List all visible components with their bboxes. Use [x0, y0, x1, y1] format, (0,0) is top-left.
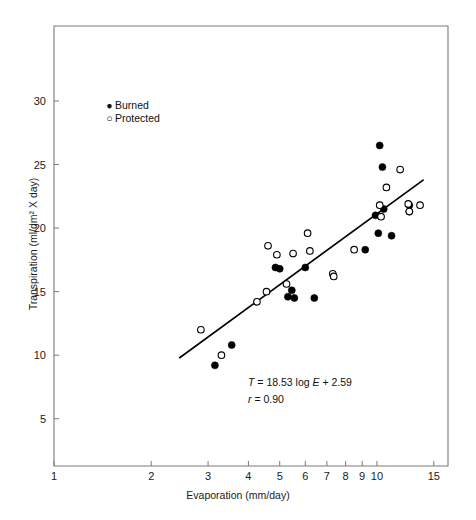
data-point-burned [362, 246, 369, 253]
equation-variable-symbol: E [313, 376, 320, 388]
data-point-protected [307, 248, 314, 255]
data-point-protected [406, 208, 413, 215]
data-point-protected [330, 273, 337, 280]
correlation-annotation: r = 0.90 [248, 393, 284, 405]
legend-label-burned: Burned [115, 99, 149, 111]
x-tick-label: 9 [359, 470, 365, 482]
data-point-burned [211, 362, 218, 369]
x-axis-title: Evaporation (mm/day) [0, 489, 476, 501]
x-tick-label: 10 [371, 470, 383, 482]
data-point-burned [228, 342, 235, 349]
data-point-protected [283, 281, 290, 288]
legend-label-protected: Protected [115, 112, 160, 124]
y-tick-label: 5 [40, 413, 46, 425]
plot-canvas: 123456789101551015202530 [0, 0, 476, 520]
data-point-protected [378, 213, 385, 220]
data-point-protected [265, 243, 272, 250]
data-point-burned [276, 265, 283, 272]
data-point-protected [405, 201, 412, 208]
data-point-protected [383, 184, 390, 191]
data-point-protected [274, 251, 281, 258]
data-point-protected [417, 202, 424, 209]
data-point-burned [376, 142, 383, 149]
filled-circle-icon: ● [104, 99, 115, 111]
x-tick-label: 4 [245, 470, 251, 482]
data-point-burned [302, 264, 309, 271]
data-point-protected [397, 166, 404, 173]
data-point-protected [263, 288, 270, 295]
data-point-burned [379, 164, 386, 171]
regression-equation: T = 18.53 log E + 2.59 [248, 376, 352, 388]
data-point-burned [311, 294, 318, 301]
equation-rhs: + 2.59 [320, 376, 352, 388]
data-point-protected [218, 352, 225, 359]
x-tick-label: 1 [51, 470, 57, 482]
x-tick-label: 7 [324, 470, 330, 482]
data-point-burned [388, 232, 395, 239]
x-tick-label: 5 [277, 470, 283, 482]
open-circle-icon: ○ [104, 112, 115, 124]
data-point-protected [254, 298, 261, 305]
legend-item-protected: ○Protected [104, 112, 160, 124]
y-tick-label: 10 [34, 349, 46, 361]
data-point-burned [291, 294, 298, 301]
x-tick-label: 6 [302, 470, 308, 482]
x-tick-label: 15 [428, 470, 440, 482]
data-point-protected [376, 202, 383, 209]
data-point-protected [290, 250, 297, 257]
data-point-burned [288, 287, 295, 294]
equation-operator: = 18.53 log [254, 376, 312, 388]
correlation-value: = 0.90 [252, 393, 284, 405]
scatter-plot-figure: 123456789101551015202530 Transpiration (… [0, 0, 476, 520]
data-point-protected [304, 230, 311, 237]
data-point-protected [198, 326, 205, 333]
x-tick-label: 3 [205, 470, 211, 482]
data-point-burned [375, 230, 382, 237]
y-axis-title: Transpiration (ml/dm² X day) [27, 164, 39, 324]
legend-item-burned: ●Burned [104, 99, 149, 111]
x-tick-label: 8 [343, 470, 349, 482]
y-tick-label: 30 [34, 95, 46, 107]
data-point-burned [284, 293, 291, 300]
x-tick-label: 2 [148, 470, 154, 482]
data-point-protected [351, 246, 358, 253]
